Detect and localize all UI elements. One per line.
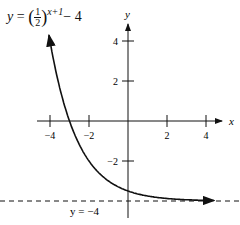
x-tick-label: 4 [204,130,209,141]
curve [49,35,214,200]
plot-area: xy−4−22442−2y = −4 [0,0,240,225]
y-tick-label: 2 [113,76,118,87]
curve-left-arrow [49,35,50,43]
asymptote-label: y = −4 [70,205,99,217]
y-axis-label: y [124,8,130,20]
axes: xy−4−22442−2y = −4 [0,8,240,218]
x-tick-label: −4 [45,130,56,141]
chart: y = (12)x+1− 4 xy−4−22442−2y = −4 [0,0,240,225]
x-tick-label: −2 [84,130,95,141]
function-curve [49,35,214,200]
y-tick-label: 4 [113,36,118,47]
x-axis-label: x [228,115,234,127]
x-tick-label: 2 [165,130,170,141]
y-tick-label: −2 [107,156,118,167]
